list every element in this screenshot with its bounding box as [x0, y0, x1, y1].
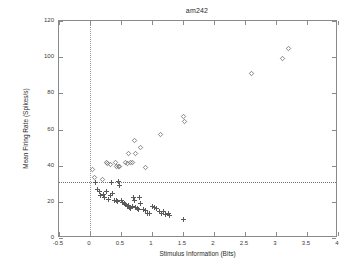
- x-axis-tick-top: [276, 21, 277, 25]
- data-point: [105, 161, 110, 166]
- data-point: [157, 209, 162, 214]
- y-axis-label: Mean Firing Rate (Spikes/s): [22, 20, 29, 237]
- plot-area: [58, 20, 337, 237]
- data-point: [125, 204, 130, 209]
- data-point: [115, 199, 120, 204]
- data-point: [280, 56, 285, 61]
- data-point: [138, 201, 143, 206]
- data-point: [138, 145, 143, 150]
- data-point: [133, 205, 138, 210]
- data-point: [127, 205, 132, 210]
- data-point: [114, 164, 119, 169]
- y-axis-tick-right: [332, 130, 336, 131]
- data-point: [150, 204, 155, 209]
- y-axis-tick-label: 40: [54, 162, 61, 168]
- data-point: [154, 206, 159, 211]
- chart-title: am242: [0, 7, 358, 14]
- x-axis-tick-label: 0.5: [116, 240, 124, 246]
- data-point: [161, 209, 166, 214]
- y-axis-tick-label: 120: [54, 17, 64, 23]
- y-axis-tick-right: [332, 238, 336, 239]
- y-axis-tick-label: 60: [54, 126, 61, 132]
- data-point: [136, 207, 141, 212]
- x-axis-tick: [59, 232, 60, 236]
- y-axis-tick-label: 20: [54, 198, 61, 204]
- x-axis-tick-top: [121, 21, 122, 25]
- data-point: [249, 71, 254, 76]
- data-point: [126, 203, 131, 208]
- x-axis-tick-top: [245, 21, 246, 25]
- x-axis-tick-label: 1.5: [178, 240, 186, 246]
- data-point: [135, 206, 140, 211]
- x-axis-tick-top: [90, 21, 91, 25]
- data-point: [147, 211, 152, 216]
- data-point: [143, 165, 148, 170]
- x-axis-tick-top: [152, 21, 153, 25]
- data-point: [120, 200, 125, 205]
- data-point: [104, 160, 109, 165]
- data-point: [137, 195, 142, 200]
- x-axis-tick-label: 1: [149, 240, 152, 246]
- x-axis-tick-label: -0.5: [53, 240, 63, 246]
- data-point: [286, 46, 291, 51]
- data-point: [119, 198, 124, 203]
- data-point: [102, 195, 107, 200]
- x-axis-tick-label: 3.5: [302, 240, 310, 246]
- y-axis-tick-label: 100: [54, 53, 64, 59]
- y-axis-tick-right: [332, 166, 336, 167]
- data-point: [110, 191, 115, 196]
- x-axis-tick: [276, 232, 277, 236]
- data-point: [104, 189, 109, 194]
- data-point: [106, 197, 111, 202]
- data-point: [112, 198, 117, 203]
- x-axis-label: Stimulus Information (Bits): [58, 250, 337, 257]
- data-point: [166, 211, 171, 216]
- data-point: [98, 193, 103, 198]
- data-point: [108, 162, 113, 167]
- x-axis-tick-label: 4: [335, 240, 338, 246]
- data-point: [128, 160, 133, 165]
- data-point: [117, 164, 122, 169]
- x-axis-tick: [90, 232, 91, 236]
- data-point: [114, 198, 119, 203]
- data-point: [132, 138, 137, 143]
- x-axis-tick: [121, 232, 122, 236]
- x-axis-tick-top: [338, 21, 339, 25]
- data-point: [122, 201, 127, 206]
- data-point: [158, 132, 163, 137]
- reference-line-vertical: [90, 21, 91, 236]
- x-axis-tick-top: [214, 21, 215, 25]
- x-axis-tick-label: 3: [273, 240, 276, 246]
- x-axis-tick-top: [183, 21, 184, 25]
- data-point: [108, 193, 113, 198]
- x-axis-tick: [307, 232, 308, 236]
- data-point: [92, 175, 97, 180]
- x-axis-tick-top: [307, 21, 308, 25]
- y-axis-tick-right: [332, 93, 336, 94]
- y-axis-tick-label: 0: [54, 234, 57, 240]
- data-point: [132, 198, 137, 203]
- data-point: [97, 189, 102, 194]
- data-point: [123, 160, 128, 165]
- x-axis-tick: [245, 232, 246, 236]
- x-axis-tick-label: 2.5: [240, 240, 248, 246]
- data-point: [128, 206, 133, 211]
- reference-line-horizontal: [59, 182, 336, 183]
- chart-figure: am242 -0.500.511.522.533.540204060801001…: [0, 0, 358, 270]
- data-point: [116, 164, 121, 169]
- data-point: [95, 187, 100, 192]
- data-point: [143, 208, 148, 213]
- data-point: [130, 160, 135, 165]
- y-axis-tick-right: [332, 202, 336, 203]
- data-point: [126, 151, 131, 156]
- data-point: [130, 204, 135, 209]
- data-point: [123, 202, 128, 207]
- x-axis-tick-label: 0: [87, 240, 90, 246]
- x-axis-tick: [338, 232, 339, 236]
- data-point: [159, 211, 164, 216]
- y-axis-tick: [59, 238, 63, 239]
- data-point: [133, 151, 138, 156]
- data-point: [145, 211, 150, 216]
- data-point: [181, 217, 186, 222]
- data-point: [113, 160, 118, 165]
